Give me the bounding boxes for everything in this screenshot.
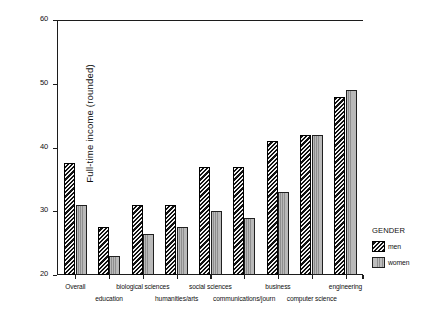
bar-group — [300, 20, 323, 275]
y-axis-tick-mark — [53, 275, 57, 276]
legend: GENDER men women — [372, 226, 430, 273]
x-axis-tick-label: Overall — [65, 283, 85, 290]
x-axis-tick-label: business — [265, 283, 290, 290]
bar-men[interactable] — [98, 227, 109, 275]
bar-group — [165, 20, 188, 275]
x-axis-tick-mark — [362, 275, 363, 279]
x-axis-tick-label: engineering — [329, 283, 362, 290]
y-axis-tick-label: 60 — [40, 14, 48, 23]
bar-men[interactable] — [233, 167, 244, 275]
y-axis-tick-label: 50 — [40, 78, 48, 87]
bar-group — [98, 20, 121, 275]
x-axis-tick-mark — [143, 275, 144, 279]
legend-item-women[interactable]: women — [372, 257, 430, 268]
bar-group — [64, 20, 87, 275]
x-axis-tick-label: communications/journ — [213, 295, 275, 302]
bar-women[interactable] — [109, 256, 120, 275]
x-axis-tick-mark — [177, 275, 178, 279]
bar-women[interactable] — [278, 192, 289, 275]
x-axis-tick-label: computer science — [287, 295, 337, 302]
legend-title: GENDER — [372, 226, 430, 235]
bar-women[interactable] — [244, 218, 255, 275]
bar-women[interactable] — [211, 211, 222, 275]
bar-men[interactable] — [132, 205, 143, 275]
bar-chart-figure: Full-time income (rounded) 6050403020 Ov… — [0, 0, 433, 330]
legend-item-men[interactable]: men — [372, 241, 430, 252]
bar-group — [267, 20, 290, 275]
legend-label-men: men — [388, 243, 401, 250]
x-axis-tick-mark — [210, 275, 211, 279]
x-axis-tick-label: social sciences — [189, 283, 232, 290]
y-axis-tick-mark — [53, 20, 57, 21]
y-axis-tick: 60 — [0, 20, 57, 21]
x-axis-tick-label: humanities/arts — [155, 295, 198, 302]
x-axis-tick-label: education — [95, 295, 123, 302]
bar-group — [199, 20, 222, 275]
bar-men[interactable] — [165, 205, 176, 275]
bar-men[interactable] — [64, 163, 75, 275]
bar-women[interactable] — [177, 227, 188, 275]
bar-women[interactable] — [346, 90, 357, 275]
bars-container — [58, 20, 362, 275]
bar-men[interactable] — [334, 97, 345, 276]
bar-women[interactable] — [76, 205, 87, 275]
y-axis-tick-mark — [53, 84, 57, 85]
bar-women[interactable] — [312, 135, 323, 275]
bar-men[interactable] — [267, 141, 278, 275]
y-axis-tick-label: 20 — [40, 269, 48, 278]
x-axis-tick-mark — [75, 275, 76, 279]
legend-swatch-women-icon — [372, 257, 385, 268]
x-axis-tick-mark — [278, 275, 279, 279]
y-axis-tick-mark — [53, 148, 57, 149]
legend-swatch-men-icon — [372, 241, 385, 252]
bar-group — [334, 20, 357, 275]
x-axis-tick-mark — [346, 275, 347, 279]
legend-label-women: women — [388, 259, 409, 266]
bar-men[interactable] — [199, 167, 210, 275]
x-axis-tick-mark — [244, 275, 245, 279]
x-axis-tick-label: biological sciences — [116, 283, 169, 290]
bar-group — [233, 20, 256, 275]
y-axis-tick-label: 40 — [40, 142, 48, 151]
x-axis-tick-mark — [109, 275, 110, 279]
bar-group — [132, 20, 155, 275]
y-axis-tick: 50 — [0, 84, 57, 85]
bar-men[interactable] — [300, 135, 311, 275]
x-axis: Overalleducationbiological scienceshuman… — [58, 275, 362, 327]
y-axis-tick: 40 — [0, 148, 57, 149]
bar-women[interactable] — [143, 234, 154, 275]
y-axis-tick: 20 — [0, 275, 57, 276]
y-axis-tick-mark — [53, 211, 57, 212]
y-axis-tick: 30 — [0, 211, 57, 212]
y-axis-tick-label: 30 — [40, 205, 48, 214]
x-axis-tick-mark — [312, 275, 313, 279]
